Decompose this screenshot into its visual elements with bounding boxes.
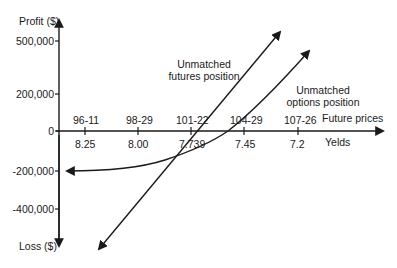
x-tick-yield: 7.739 bbox=[179, 138, 205, 150]
x-tick-yield: 7.2 bbox=[290, 138, 305, 150]
profit-loss-chart: Profit ($) Loss ($) Future prices Yelds … bbox=[0, 0, 397, 268]
futures-annotation-line2: futures position bbox=[164, 70, 244, 82]
options-annotation-line2: options position bbox=[278, 96, 368, 108]
y-tick-label: 0 bbox=[0, 125, 54, 137]
chart-svg bbox=[0, 0, 397, 268]
x-tick-price: 104-29 bbox=[230, 114, 263, 126]
futures-annotation: Unmatched futures position bbox=[164, 58, 244, 82]
options-annotation-line1: Unmatched bbox=[278, 84, 368, 96]
options-annotation: Unmatched options position bbox=[278, 84, 368, 108]
x-tick-yield: 8.25 bbox=[75, 138, 95, 150]
x-tick-price: 107-26 bbox=[284, 114, 317, 126]
x-tick-price: 96-11 bbox=[73, 114, 99, 126]
x-tick-price: 98-29 bbox=[126, 114, 153, 126]
x-axis-title-yields: Yelds bbox=[325, 136, 350, 148]
y-tick-label: 200,000 bbox=[0, 88, 54, 100]
futures-annotation-line1: Unmatched bbox=[164, 58, 244, 70]
y-axis-title-profit: Profit ($) bbox=[19, 15, 59, 27]
y-tick-label: 500,000 bbox=[0, 35, 54, 47]
x-tick-price: 101-22 bbox=[176, 114, 209, 126]
y-tick-label: -200,000 bbox=[0, 165, 54, 177]
y-tick-label: -400,000 bbox=[0, 203, 54, 215]
x-axis-title-prices: Future prices bbox=[322, 112, 383, 124]
x-tick-yield: 7.45 bbox=[235, 138, 255, 150]
y-axis-title-loss: Loss ($) bbox=[19, 240, 57, 252]
x-tick-yield: 8.00 bbox=[128, 138, 148, 150]
